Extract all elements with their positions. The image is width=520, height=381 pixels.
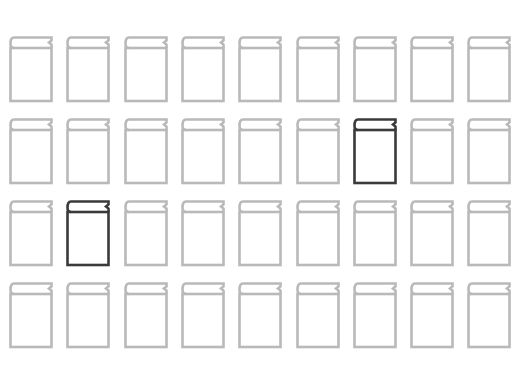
book-tile-r1-c9[interactable]	[466, 35, 512, 103]
book-tile-r4-c9[interactable]	[466, 281, 512, 349]
book-icon	[409, 117, 455, 185]
book-tile-r1-c4[interactable]	[180, 35, 226, 103]
book-icon	[65, 35, 111, 103]
book-tile-r4-c1[interactable]	[8, 281, 54, 349]
book-tile-r2-c6[interactable]	[295, 117, 341, 185]
book-tile-r4-c6[interactable]	[295, 281, 341, 349]
book-tile-r3-c5[interactable]	[237, 199, 283, 267]
book-icon	[123, 199, 169, 267]
book-icon	[237, 117, 283, 185]
book-icon	[466, 35, 512, 103]
book-tile-r4-c2[interactable]	[65, 281, 111, 349]
book-icon	[65, 281, 111, 349]
book-tile-r3-c8[interactable]	[409, 199, 455, 267]
book-icon	[409, 35, 455, 103]
book-tile-r4-c3[interactable]	[123, 281, 169, 349]
book-icon	[8, 281, 54, 349]
book-tile-r2-c9[interactable]	[466, 117, 512, 185]
book-icon	[295, 35, 341, 103]
book-icon	[180, 35, 226, 103]
book-icon	[8, 117, 54, 185]
book-tile-r4-c7[interactable]	[352, 281, 398, 349]
book-grid	[0, 0, 520, 381]
book-icon	[466, 117, 512, 185]
book-tile-r2-c3[interactable]	[123, 117, 169, 185]
book-tile-r1-c1[interactable]	[8, 35, 54, 103]
book-tile-r1-c5[interactable]	[237, 35, 283, 103]
book-tile-r4-c5[interactable]	[237, 281, 283, 349]
book-tile-r3-c9[interactable]	[466, 199, 512, 267]
book-icon	[8, 199, 54, 267]
book-icon	[180, 199, 226, 267]
book-tile-r3-c2-highlighted[interactable]	[65, 199, 111, 267]
book-icon	[352, 117, 398, 185]
book-icon	[180, 117, 226, 185]
book-tile-r1-c8[interactable]	[409, 35, 455, 103]
book-tile-r2-c5[interactable]	[237, 117, 283, 185]
book-icon	[123, 281, 169, 349]
book-icon	[123, 35, 169, 103]
book-tile-r2-c4[interactable]	[180, 117, 226, 185]
book-icon	[123, 117, 169, 185]
book-tile-r3-c1[interactable]	[8, 199, 54, 267]
book-tile-r1-c3[interactable]	[123, 35, 169, 103]
book-icon	[8, 35, 54, 103]
book-icon	[352, 281, 398, 349]
book-tile-r3-c6[interactable]	[295, 199, 341, 267]
book-icon	[237, 35, 283, 103]
book-tile-r4-c8[interactable]	[409, 281, 455, 349]
book-tile-r3-c7[interactable]	[352, 199, 398, 267]
book-tile-r2-c2[interactable]	[65, 117, 111, 185]
book-icon	[466, 281, 512, 349]
book-tile-r1-c7[interactable]	[352, 35, 398, 103]
book-icon	[237, 281, 283, 349]
book-tile-r2-c7-highlighted[interactable]	[352, 117, 398, 185]
book-icon	[65, 117, 111, 185]
book-icon	[237, 199, 283, 267]
book-icon	[295, 199, 341, 267]
book-icon	[466, 199, 512, 267]
book-icon	[352, 199, 398, 267]
book-tile-r2-c8[interactable]	[409, 117, 455, 185]
book-tile-r1-c6[interactable]	[295, 35, 341, 103]
book-icon	[65, 199, 111, 267]
book-icon	[409, 199, 455, 267]
book-tile-r3-c4[interactable]	[180, 199, 226, 267]
book-icon	[352, 35, 398, 103]
book-icon	[295, 281, 341, 349]
book-icon	[295, 117, 341, 185]
book-tile-r2-c1[interactable]	[8, 117, 54, 185]
book-tile-r1-c2[interactable]	[65, 35, 111, 103]
book-icon	[180, 281, 226, 349]
book-tile-r3-c3[interactable]	[123, 199, 169, 267]
book-icon	[409, 281, 455, 349]
book-tile-r4-c4[interactable]	[180, 281, 226, 349]
